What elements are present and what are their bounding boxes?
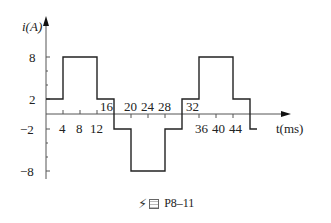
x-axis-arrow-icon [281,111,291,117]
x-tick-label-44: 44 [229,122,242,135]
y-axis-arrow-icon [43,16,49,26]
y-tick-label-neg2: −2 [20,123,34,136]
y-tick-label-neg8: −8 [20,165,34,178]
x-tick-label-20: 20 [124,100,137,113]
y-axis-label: i(A) [22,20,42,33]
y-tick-label-8: 8 [29,51,36,64]
x-tick-label-32: 32 [186,100,199,113]
x-tick-label-4: 4 [59,122,66,135]
x-tick-label-36: 36 [195,122,208,135]
y-tick-label-2: 2 [29,93,36,106]
x-tick-label-16: 16 [100,100,113,113]
figure-caption: ⚡ P8–11 [138,196,194,211]
x-tick-label-40: 40 [212,122,225,135]
lightning-bolt-icon: ⚡ [138,196,147,211]
x-tick-label-24: 24 [141,100,154,113]
x-tick-label-28: 28 [158,100,171,113]
x-tick-label-8: 8 [76,122,83,135]
x-tick-label-12: 12 [90,122,103,135]
caption-text: P8–11 [164,196,194,211]
figure-icon [149,199,159,209]
x-axis-label: t(ms) [276,122,303,135]
